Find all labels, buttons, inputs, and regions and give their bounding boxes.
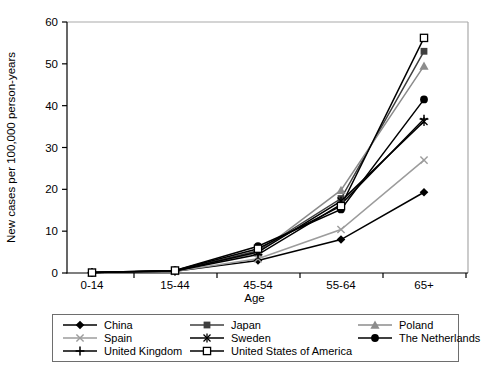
legend-item: Poland [358,319,480,331]
legend-label: China [104,319,133,331]
legend-marker-plus-icon [63,345,97,357]
y-tick-label: 20 [45,183,58,195]
series-line-united-states-of-america [92,38,424,273]
y-tick-label: 40 [45,100,58,112]
legend-item: The Netherlands [358,332,480,344]
legend-label: United States of America [231,345,352,357]
y-axis-title: New cases per 100,000 person-years [5,52,17,243]
legend-marker-diamond-icon [63,319,97,331]
y-tick-label: 30 [45,142,58,154]
series-markers-united-states-of-america [88,34,427,276]
chart-canvas: 01020304050600-1415-4445-5455-6465+AgeNe… [0,0,486,312]
legend-label: United Kingdom [104,345,182,357]
legend-label: Sweden [231,332,271,344]
legend-item: Japan [190,319,358,331]
x-tick-label: 65+ [414,279,434,291]
series-line-japan [92,51,424,272]
legend-marker-circle-icon [358,332,392,344]
legend-marker-x-icon [63,332,97,344]
y-tick-label: 10 [45,225,58,237]
legend-item: United States of America [190,345,358,357]
x-axis-title: Age [244,292,264,304]
legend-label: Spain [104,332,132,344]
chart-figure: 01020304050600-1415-4445-5455-6465+AgeNe… [0,0,486,382]
legend-item: Sweden [190,332,358,344]
x-tick-label: 55-64 [326,279,356,291]
legend-label: The Netherlands [399,332,480,344]
legend-item: Spain [63,332,190,344]
legend-marker-square-icon [190,319,224,331]
legend-item: United Kingdom [63,345,190,357]
chart-legend: ChinaJapanPolandSpainSwedenThe Netherlan… [52,314,459,362]
legend-marker-open-square-icon [190,345,224,357]
series-markers-china [88,188,429,277]
legend-marker-triangle-icon [358,319,392,331]
x-tick-label: 45-54 [243,279,273,291]
legend-marker-asterisk-icon [190,332,224,344]
y-tick-label: 0 [52,267,58,279]
x-tick-label: 15-44 [160,279,190,291]
legend-label: Poland [399,319,433,331]
y-tick-label: 50 [45,58,58,70]
legend-item: China [63,319,190,331]
legend-label: Japan [231,319,261,331]
x-tick-label: 0-14 [80,279,104,291]
y-tick-label: 60 [45,16,58,28]
